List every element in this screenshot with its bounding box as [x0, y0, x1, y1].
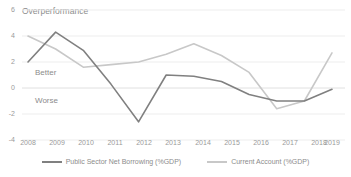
chart-container: Overperformance 6 4 2 0 -2 -4 Better Wor…: [0, 0, 351, 177]
x-axis-tick-2019: 2019: [317, 139, 347, 147]
legend-label: Public Sector Net Borrowing (%GDP): [66, 158, 182, 166]
series-line-public-sector-net-borrowing: [28, 32, 332, 122]
legend-swatch-icon: [42, 161, 62, 163]
x-axis-tick-2012: 2012: [129, 139, 159, 147]
x-axis-tick-2013: 2013: [158, 139, 188, 147]
gridlines: [22, 10, 345, 140]
annotation-worse: Worse: [35, 96, 58, 105]
legend-item-current-account[interactable]: Current Account (%GDP): [207, 158, 309, 166]
legend-item-public-sector-net-borrowing[interactable]: Public Sector Net Borrowing (%GDP): [42, 158, 182, 166]
chart-legend: Public Sector Net Borrowing (%GDP) Curre…: [0, 158, 351, 166]
x-axis-tick-2008: 2008: [13, 139, 43, 147]
x-axis-tick-2010: 2010: [71, 139, 101, 147]
plot-area: [0, 0, 351, 177]
legend-label: Current Account (%GDP): [231, 158, 309, 166]
series-line-current-account: [28, 36, 332, 109]
x-axis-tick-2011: 2011: [100, 139, 130, 147]
annotation-better: Better: [35, 68, 56, 77]
x-axis-tick-2016: 2016: [246, 139, 276, 147]
x-axis-tick-2009: 2009: [42, 139, 72, 147]
legend-swatch-icon: [207, 161, 227, 163]
x-axis-tick-2014: 2014: [188, 139, 218, 147]
x-axis-tick-2015: 2015: [217, 139, 247, 147]
x-axis-tick-2017: 2017: [275, 139, 305, 147]
